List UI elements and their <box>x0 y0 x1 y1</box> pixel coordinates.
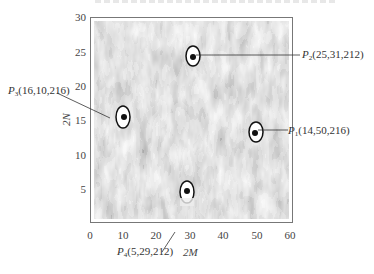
annotation-p3-coords: (16,10,216) <box>18 84 69 96</box>
annotation-p4-coords: (5,29,212) <box>127 245 173 257</box>
annotation-p3-letter: P <box>8 84 15 96</box>
annotation-p1-letter: P <box>288 124 295 136</box>
annotation-p4: P4(5,29,212) <box>117 246 173 259</box>
annotation-p1-coords: (14,50,216) <box>298 124 349 136</box>
annotation-p2-letter: P <box>302 48 309 60</box>
annotation-p3: P3(16,10,216) <box>8 85 70 98</box>
annotation-p2: P2(25,31,212) <box>302 49 364 62</box>
annotation-p1: P1(14,50,216) <box>288 125 350 138</box>
annotation-p4-letter: P <box>117 245 124 257</box>
annotation-p2-coords: (25,31,212) <box>312 48 363 60</box>
